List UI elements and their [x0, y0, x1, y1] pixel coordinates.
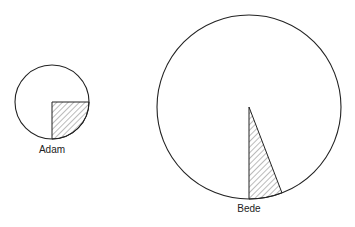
pie-bede — [157, 15, 341, 199]
bede-label: Bede — [237, 203, 260, 214]
shaded-sector — [249, 107, 282, 199]
adam-label: Adam — [39, 144, 65, 155]
pie-adam — [15, 65, 89, 139]
pie-comparison-chart — [0, 0, 355, 227]
